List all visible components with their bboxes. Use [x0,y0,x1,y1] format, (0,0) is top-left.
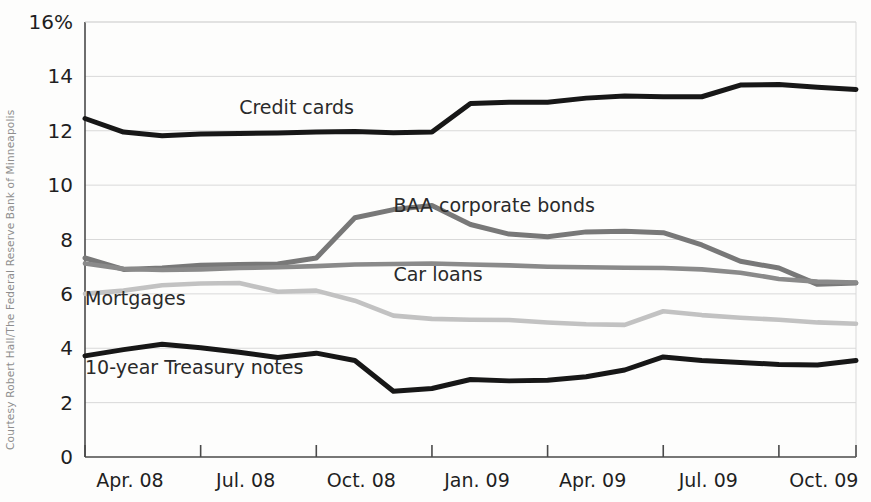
series-label-mortgages: Mortgages [85,287,186,309]
y-tick-label: 4 [60,336,73,360]
series-label-car-loans: Car loans [393,263,482,285]
x-tick-label: Apr. 09 [559,469,626,491]
y-tick-label: 12 [48,119,73,143]
y-axis-tick-labels: 0246810121416% [29,10,73,469]
x-tick-label: Jul. 09 [678,469,738,491]
image-credit: Courtesy Robert Hall/The Federal Reserve… [4,110,16,450]
series-label-credit-cards: Credit cards [239,96,354,118]
series-line-credit-cards [85,85,856,136]
y-tick-label: 16% [29,10,73,34]
x-axis-tick-labels: Apr. 08Jul. 08Oct. 08Jan. 09Apr. 09Jul. … [96,469,858,491]
chart-figure: Courtesy Robert Hall/The Federal Reserve… [0,0,871,502]
series-label-baa-corporate-bonds: BAA corporate bonds [393,194,595,216]
x-tick-label: Jan. 09 [443,469,510,491]
y-tick-label: 2 [60,391,73,415]
y-tick-label: 6 [60,282,73,306]
series-label-10-year-treasury-notes: 10-year Treasury notes [85,356,303,378]
x-tick-label: Oct. 09 [789,469,858,491]
y-tick-label: 10 [48,173,73,197]
x-tick-label: Oct. 08 [327,469,396,491]
x-tick-label: Jul. 08 [215,469,275,491]
y-tick-label: 14 [48,64,73,88]
y-tick-label: 8 [60,228,73,252]
series-line-mortgages [85,283,856,325]
interest-rates-line-chart: 0246810121416% Apr. 08Jul. 08Oct. 08Jan.… [0,0,871,502]
credit-container: Courtesy Robert Hall/The Federal Reserve… [0,0,22,502]
y-tick-label: 0 [60,445,73,469]
x-tick-label: Apr. 08 [96,469,163,491]
